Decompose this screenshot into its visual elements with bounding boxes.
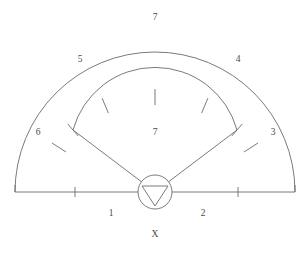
home-plate-circle xyxy=(138,175,172,209)
label-zone-far-right: 3 xyxy=(271,127,276,137)
infield-arc-tick-2 xyxy=(102,98,108,113)
infield-arc-tick-1 xyxy=(68,124,79,136)
label-zone-top-outfield: 7 xyxy=(153,12,158,22)
field-diagram-svg: 7 5 4 6 3 7 1 2 X xyxy=(0,0,308,253)
label-zone-left-outfield: 5 xyxy=(78,54,83,64)
label-zone-infield-center: 7 xyxy=(153,127,158,137)
label-zone-bottom-left: 1 xyxy=(109,208,114,218)
outfield-fence-arc xyxy=(15,52,295,192)
diagram-canvas: 7 5 4 6 3 7 1 2 X xyxy=(0,0,308,253)
label-zone-far-left: 6 xyxy=(36,127,41,137)
label-zone-right-outfield: 4 xyxy=(236,54,241,64)
label-zone-bottom-right: 2 xyxy=(201,208,206,218)
foul-zone-tick-right xyxy=(244,143,258,152)
foul-zone-tick-left xyxy=(52,143,66,152)
infield-arc-tick-5 xyxy=(232,124,243,136)
infield-arc-tick-4 xyxy=(202,98,208,113)
label-marker-home: X xyxy=(152,229,159,239)
